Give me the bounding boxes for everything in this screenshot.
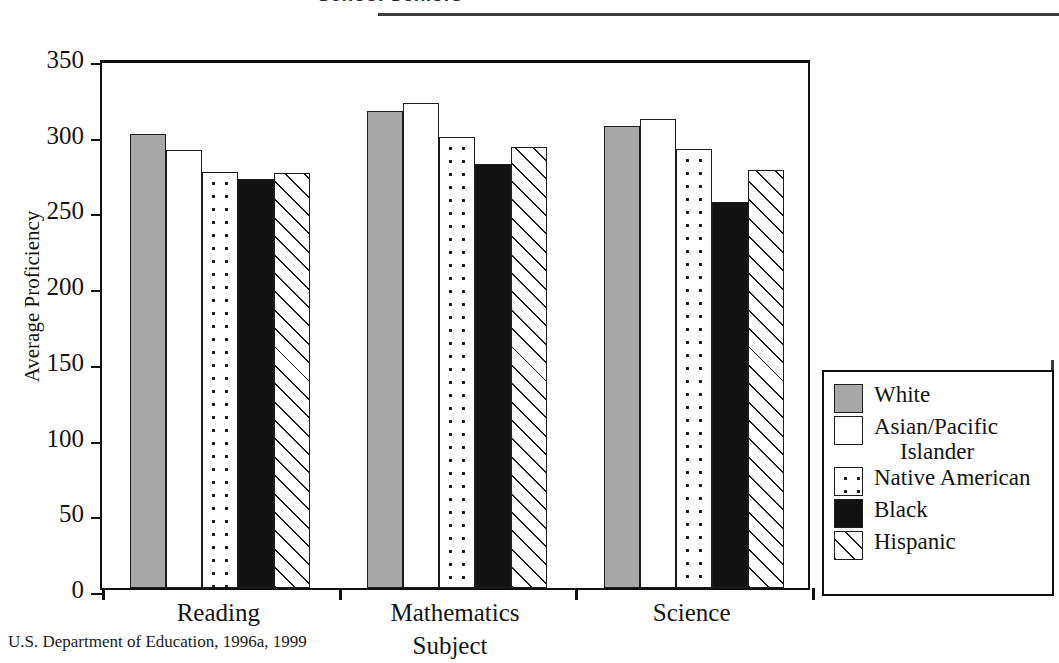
legend-item-label-continued: Islander bbox=[874, 439, 998, 464]
bar-black-science bbox=[712, 202, 748, 588]
solid-gray-swatch bbox=[834, 384, 863, 413]
bar-black-reading bbox=[238, 179, 274, 588]
x-axis-tick bbox=[102, 588, 105, 600]
y-axis-tick-label: 200 bbox=[47, 274, 85, 299]
bar-black-mathematics bbox=[475, 164, 511, 588]
legend-item-label: Hispanic bbox=[874, 529, 956, 554]
y-axis-tick bbox=[91, 214, 102, 216]
bar-native-american-science bbox=[676, 149, 712, 588]
y-axis-tick-label: 0 bbox=[72, 577, 85, 602]
legend-item[interactable]: White bbox=[834, 382, 1044, 413]
y-axis-title: Average Proficiency bbox=[20, 137, 45, 457]
page-title: School Seniors bbox=[0, 0, 780, 6]
x-axis-tick bbox=[339, 588, 342, 600]
legend-item[interactable]: Native American bbox=[834, 465, 1044, 496]
bar-asian-pacific-islander-mathematics bbox=[403, 103, 439, 588]
y-axis-tick-label: 300 bbox=[47, 123, 85, 148]
x-axis-tick bbox=[812, 588, 815, 600]
legend-item-label: Black bbox=[874, 497, 928, 522]
x-axis-title: Subject bbox=[330, 632, 570, 660]
y-axis-tick bbox=[91, 442, 102, 444]
y-axis-tick bbox=[91, 366, 102, 368]
bar-hispanic-reading bbox=[274, 173, 310, 588]
y-axis-tick bbox=[91, 139, 102, 141]
x-axis-tick bbox=[575, 588, 578, 600]
source-note: U.S. Department of Education, 1996a, 199… bbox=[8, 632, 307, 652]
solid-black-swatch bbox=[834, 499, 863, 528]
y-axis-tick bbox=[91, 517, 102, 519]
bar-hispanic-science bbox=[748, 170, 784, 588]
x-axis-category-label: Reading bbox=[100, 600, 337, 625]
dotted-swatch bbox=[834, 467, 863, 496]
chart-title-container: School Seniors bbox=[0, 0, 1059, 14]
solid-white-swatch bbox=[834, 416, 863, 445]
x-axis-tick-labels: ReadingMathematicsScience bbox=[100, 600, 810, 634]
y-axis-tick bbox=[91, 593, 102, 595]
bar-white-mathematics bbox=[367, 111, 403, 588]
bar-white-science bbox=[604, 126, 640, 588]
title-rule-divider bbox=[378, 13, 1059, 16]
legend-item[interactable]: Black bbox=[834, 497, 1044, 528]
legend-item-label: White bbox=[874, 382, 930, 407]
bar-native-american-mathematics bbox=[439, 137, 475, 588]
y-axis-tick bbox=[91, 290, 102, 292]
y-axis-tick-label: 50 bbox=[59, 501, 84, 526]
bar-hispanic-mathematics bbox=[511, 147, 547, 588]
bar-asian-pacific-islander-reading bbox=[166, 150, 202, 588]
legend-item-label: Native American bbox=[874, 465, 1030, 490]
legend-item-label: Asian/PacificIslander bbox=[874, 414, 998, 464]
bar-white-reading bbox=[130, 134, 166, 588]
plot-frame bbox=[100, 60, 810, 590]
bar-native-american-reading bbox=[202, 172, 238, 588]
y-axis-tick bbox=[91, 63, 102, 65]
y-axis-tick-label: 350 bbox=[47, 47, 85, 72]
legend-item[interactable]: Asian/PacificIslander bbox=[834, 414, 1044, 464]
hatched-swatch bbox=[834, 531, 863, 560]
chart-legend: WhiteAsian/PacificIslanderNative America… bbox=[822, 370, 1054, 596]
y-axis-tick-label: 150 bbox=[47, 350, 85, 375]
bar-asian-pacific-islander-science bbox=[640, 119, 676, 588]
y-axis-tick-label: 100 bbox=[47, 426, 85, 451]
y-axis-tick-label: 250 bbox=[47, 198, 85, 223]
legend-item[interactable]: Hispanic bbox=[834, 529, 1044, 560]
x-axis-category-label: Science bbox=[573, 600, 810, 625]
x-axis-category-label: Mathematics bbox=[337, 600, 574, 625]
plot-area bbox=[102, 63, 808, 588]
